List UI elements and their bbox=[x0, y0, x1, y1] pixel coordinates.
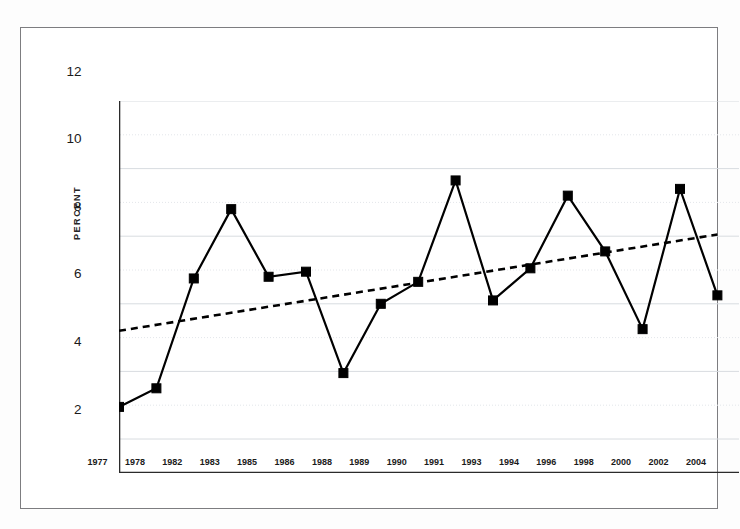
data-point-marker bbox=[376, 299, 385, 308]
data-point-marker bbox=[489, 296, 498, 305]
y-tick-label-10: 10 bbox=[54, 131, 82, 146]
data-series-line bbox=[119, 180, 717, 406]
data-point-marker bbox=[264, 272, 273, 281]
data-point-marker bbox=[339, 369, 348, 378]
series-polyline bbox=[119, 180, 717, 406]
y-axis-line bbox=[119, 101, 120, 473]
data-markers bbox=[119, 176, 722, 411]
data-point-marker bbox=[302, 267, 311, 276]
data-point-marker bbox=[119, 402, 124, 411]
data-point-marker bbox=[526, 264, 535, 273]
y-tick-label-6: 6 bbox=[54, 266, 82, 281]
x-axis-line bbox=[119, 473, 739, 474]
data-point-marker bbox=[152, 384, 161, 393]
data-point-marker bbox=[414, 277, 423, 286]
y-tick-label-12: 12 bbox=[54, 64, 82, 79]
chart-svg bbox=[119, 101, 739, 473]
x-tick-label-2004: 2004 bbox=[674, 457, 718, 467]
figure: PERCENT 24681012 19771978198219831985198… bbox=[0, 0, 740, 529]
data-point-marker bbox=[713, 291, 722, 300]
data-point-marker bbox=[638, 325, 647, 334]
data-point-marker bbox=[189, 274, 198, 283]
y-tick-label-2: 2 bbox=[54, 402, 82, 417]
data-point-marker bbox=[563, 191, 572, 200]
data-point-marker bbox=[451, 176, 460, 185]
y-tick-label-8: 8 bbox=[54, 199, 82, 214]
y-tick-label-4: 4 bbox=[54, 334, 82, 349]
data-point-marker bbox=[601, 247, 610, 256]
data-point-marker bbox=[227, 205, 236, 214]
chart-frame: PERCENT 24681012 19771978198219831985198… bbox=[20, 27, 718, 509]
data-point-marker bbox=[676, 184, 685, 193]
plot-area bbox=[119, 101, 739, 473]
gridlines bbox=[120, 101, 739, 473]
